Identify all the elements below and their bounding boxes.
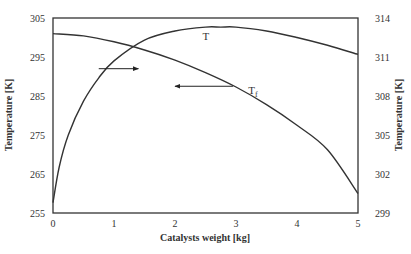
y-tick-right: 299 (375, 208, 390, 219)
x-tick: 0 (51, 218, 56, 229)
curves (53, 27, 358, 203)
y-tick-right: 308 (375, 91, 390, 102)
left-axis-ticks: 255265275285295305 (30, 13, 45, 219)
x-tick: 4 (295, 218, 300, 229)
plot-frame (53, 18, 358, 213)
y-axis-label-left: Temperature [K] (3, 79, 14, 152)
y-axis-label-right: Temperature [K] (393, 79, 404, 152)
curve-label-t: T (202, 30, 209, 42)
y-tick-right: 314 (375, 13, 390, 24)
x-tick: 1 (112, 218, 117, 229)
y-tick-left: 305 (30, 13, 45, 24)
annotations: TTf (99, 30, 258, 99)
y-tick-left: 285 (30, 91, 45, 102)
x-axis-label: Catalysts weight [kg] (160, 232, 250, 243)
x-tick: 5 (356, 218, 361, 229)
curve-tf (53, 34, 358, 194)
chart: 255265275285295305 299302305308311314 01… (0, 0, 411, 254)
x-tick: 2 (173, 218, 178, 229)
y-tick-left: 295 (30, 52, 45, 63)
y-tick-right: 302 (375, 169, 390, 180)
x-tick: 3 (234, 218, 239, 229)
y-tick-left: 255 (30, 208, 45, 219)
y-tick-left: 265 (30, 169, 45, 180)
y-tick-right: 305 (375, 130, 390, 141)
curve-t (53, 27, 358, 203)
y-tick-left: 275 (30, 130, 45, 141)
x-axis-ticks: 012345 (51, 218, 361, 229)
y-tick-right: 311 (375, 52, 390, 63)
right-axis-ticks: 299302305308311314 (375, 13, 390, 219)
